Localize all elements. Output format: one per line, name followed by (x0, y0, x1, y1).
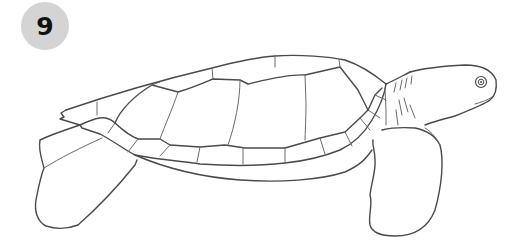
costal-scute-dividers (152, 56, 340, 145)
marginal-scute-dividers (97, 95, 386, 164)
costal-scute-outline (115, 67, 368, 123)
marginal-scute-line (80, 88, 382, 148)
rear-flipper-inner (44, 138, 102, 168)
rear-flipper (35, 125, 137, 228)
sea-turtle-illustration (0, 0, 531, 248)
front-flipper-shoulder (425, 128, 440, 146)
shell-outline (66, 55, 386, 110)
front-flipper (370, 128, 443, 236)
head-outline (410, 65, 496, 125)
eye-dot (480, 81, 482, 83)
neck-wrinkles (385, 76, 415, 125)
